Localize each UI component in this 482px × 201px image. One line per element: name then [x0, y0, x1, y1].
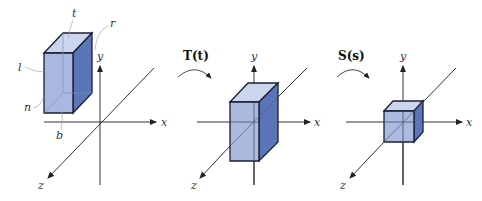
- z-axis-back: [423, 68, 456, 102]
- z-axis-label: z: [37, 179, 44, 192]
- face-label-left: l: [18, 61, 22, 74]
- curved-arrow-icon: [337, 70, 369, 78]
- y-axis-label: y: [250, 50, 258, 63]
- x-axis-label: x: [466, 116, 473, 129]
- box-translated: [230, 83, 278, 161]
- z-axis-label: z: [190, 179, 197, 192]
- box-original: [44, 33, 92, 113]
- z-axis-back: [278, 68, 307, 97]
- face-label-near: n: [24, 101, 31, 114]
- x-axis-label: x: [161, 116, 168, 129]
- box-front-face: [44, 53, 73, 113]
- z-axis-front: [350, 142, 384, 178]
- face-label-bottom: b: [56, 129, 63, 142]
- face-label-right: r: [110, 17, 116, 30]
- y-axis-label: y: [96, 50, 104, 63]
- z-axis-label: z: [339, 179, 346, 192]
- y-axis-label: y: [399, 50, 407, 63]
- face-label-top: t: [72, 7, 77, 20]
- operator-translate: T(t): [178, 49, 211, 78]
- panel-original: x y z t r l n b: [18, 7, 168, 192]
- translate-operator-label: T(t): [183, 49, 209, 63]
- panel-translated: x y z: [190, 50, 321, 192]
- z-axis-front: [200, 146, 230, 178]
- transform-diagram: x y z t r l n b T(t) x y: [0, 0, 482, 201]
- curved-arrow-icon: [178, 70, 211, 78]
- box-scaled: [384, 101, 423, 142]
- scale-operator-label: S(s): [338, 49, 365, 63]
- operator-scale: S(s): [337, 49, 369, 78]
- x-axis-label: x: [314, 116, 321, 129]
